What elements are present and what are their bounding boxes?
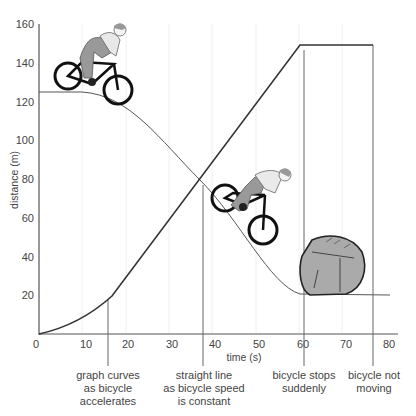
svg-text:30: 30	[166, 338, 178, 350]
distance-time-chart: 160 140 120 100 80 60 40 20 distance (m)…	[0, 0, 416, 416]
svg-text:50: 50	[253, 338, 265, 350]
annotation-accelerates: graph curves as bicycle accelerates	[63, 369, 153, 408]
y-axis-label: distance (m)	[8, 151, 20, 209]
svg-text:10: 10	[80, 338, 92, 350]
x-tick-labels: 0 10 20 30 40 50 60 70 80	[33, 338, 395, 350]
annotation-not-moving: bicycle not moving	[331, 369, 416, 395]
note-line: is constant	[154, 395, 254, 408]
svg-text:0: 0	[33, 338, 39, 350]
svg-text:40: 40	[22, 251, 34, 263]
annotation-constant-speed: straight line as bicycle speed is consta…	[154, 369, 254, 408]
note-line: as bicycle speed	[154, 382, 254, 395]
svg-text:70: 70	[340, 338, 352, 350]
x-axis-label: time (s)	[227, 351, 262, 363]
bicycle-rider-middle-illustration	[212, 168, 291, 244]
svg-text:80: 80	[22, 173, 34, 185]
boulder-illustration	[300, 236, 365, 295]
svg-text:60: 60	[22, 212, 34, 224]
note-line: straight line	[154, 369, 254, 382]
svg-text:20: 20	[122, 338, 134, 350]
svg-text:40: 40	[209, 338, 221, 350]
svg-text:20: 20	[22, 289, 34, 301]
note-line: moving	[331, 382, 416, 395]
svg-text:140: 140	[16, 57, 34, 69]
svg-text:80: 80	[383, 338, 395, 350]
note-line: graph curves	[63, 369, 153, 382]
note-line: bicycle not	[331, 369, 416, 382]
svg-text:100: 100	[16, 134, 34, 146]
svg-text:60: 60	[297, 338, 309, 350]
svg-text:120: 120	[16, 96, 34, 108]
note-line: accelerates	[63, 395, 153, 408]
svg-text:160: 160	[16, 18, 34, 30]
note-line: as bicycle	[63, 382, 153, 395]
